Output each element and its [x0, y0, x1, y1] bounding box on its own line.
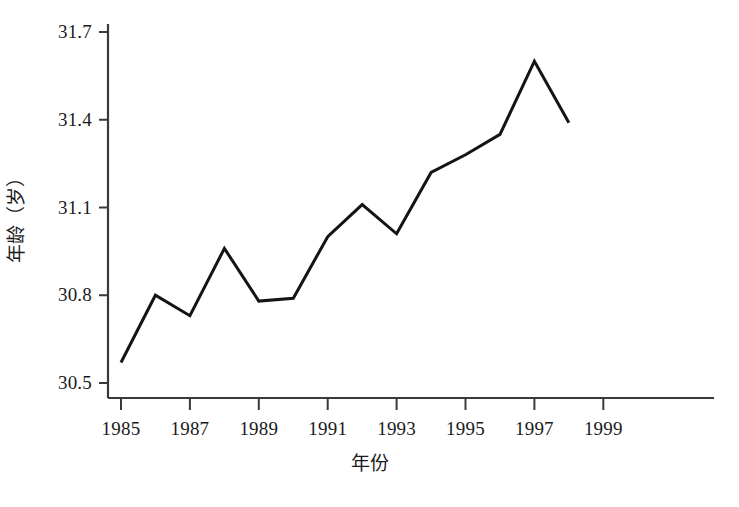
y-axis-tick-label: 30.8	[58, 284, 92, 306]
y-axis-tick-label: 31.4	[58, 109, 92, 131]
data-series-group	[121, 61, 569, 362]
x-axis-title: 年份	[0, 448, 739, 475]
x-axis-tick-label: 1999	[584, 418, 623, 440]
y-axis-title: 年龄（岁）	[1, 168, 28, 263]
x-axis-tick-label: 1997	[515, 418, 554, 440]
y-axis-tick-label: 30.5	[58, 372, 92, 394]
series-line-age	[121, 61, 569, 362]
x-axis-tick-label: 1987	[170, 418, 209, 440]
x-axis-ticks	[121, 398, 603, 410]
y-axis-tick-label: 31.7	[58, 21, 92, 43]
x-axis-tick-label: 1993	[377, 418, 416, 440]
x-axis-tick-label: 1989	[239, 418, 278, 440]
x-axis-tick-label: 1991	[308, 418, 347, 440]
line-chart-figure: 30.530.831.131.431.7 1985198719891991199…	[0, 0, 739, 507]
x-axis-tick-label: 1995	[446, 418, 485, 440]
x-axis-tick-label: 1985	[102, 418, 141, 440]
y-axis-ticks	[99, 32, 108, 383]
y-axis-tick-label: 31.1	[58, 197, 92, 219]
